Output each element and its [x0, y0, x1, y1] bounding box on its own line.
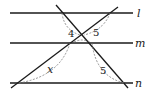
label-n: n	[135, 77, 142, 90]
segment-label-upper-right: 5	[93, 27, 99, 38]
label-l: l	[137, 7, 141, 20]
segment-label-upper-left: 4	[68, 28, 74, 39]
parallel-lines-diagram: l m n 4 5 x 5	[0, 0, 151, 92]
segment-label-lower-left: x	[47, 63, 54, 76]
segment-label-lower-right: 5	[100, 65, 106, 76]
label-m: m	[135, 37, 145, 50]
